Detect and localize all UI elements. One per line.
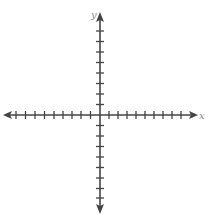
- y-axis: [96, 12, 104, 214]
- y-axis-label: y: [90, 9, 97, 20]
- coordinate-plane: x y: [0, 0, 210, 218]
- x-axis-label: x: [199, 110, 205, 121]
